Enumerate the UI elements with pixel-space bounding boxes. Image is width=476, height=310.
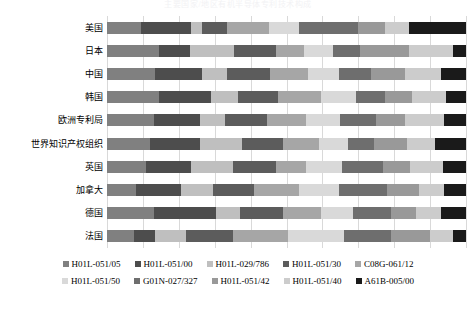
bar-segment <box>409 22 466 34</box>
bar-segment <box>190 45 235 57</box>
bar-segment <box>150 138 200 150</box>
gridline <box>466 16 467 248</box>
legend-swatch-icon <box>283 261 289 267</box>
bar-segment <box>107 230 134 242</box>
bar-segment <box>276 161 307 173</box>
bar-segment <box>358 22 385 34</box>
y-axis-label: 加拿大 <box>0 184 103 196</box>
bar-segment <box>306 114 340 126</box>
bar-segment <box>385 22 408 34</box>
legend-item[interactable]: H01L-051/42 <box>212 276 270 286</box>
y-axis-label: 德国 <box>0 207 103 219</box>
bar-segment <box>211 91 238 103</box>
bar-segment <box>446 91 466 103</box>
bar-segment <box>319 138 348 150</box>
bar-segment <box>234 45 275 57</box>
bar-segment <box>288 230 344 242</box>
bar-row <box>107 45 466 57</box>
bar-segment <box>107 207 154 219</box>
legend-item[interactable]: C08G-061/12 <box>355 259 414 269</box>
legend-item[interactable]: G01N-027/327 <box>134 276 198 286</box>
bar-segment <box>283 138 319 150</box>
chart-container: 主要国家/地区有机半导体专利技术构成 美国日本中国韩国欧洲专利局世界知识产权组织… <box>0 0 476 310</box>
bar-segment <box>443 161 466 173</box>
bar-segment <box>269 22 300 34</box>
bar-row <box>107 207 466 219</box>
y-axis-label: 日本 <box>0 45 103 57</box>
bar-segment <box>444 114 466 126</box>
y-axis-label: 中国 <box>0 68 103 80</box>
bar-segment <box>159 45 190 57</box>
bar-segment <box>276 45 305 57</box>
chart-title: 主要国家/地区有机半导体专利技术构成 <box>0 0 476 9</box>
bar-segment <box>376 114 405 126</box>
bars-layer <box>107 16 466 248</box>
bar-segment <box>416 207 441 219</box>
bar-segment <box>233 161 276 173</box>
chart-legend: H01L-051/05H01L-051/00H01L-029/786H01L-0… <box>0 255 476 289</box>
bar-segment <box>306 161 342 173</box>
bar-segment <box>254 184 299 196</box>
bar-segment <box>430 230 453 242</box>
bar-segment <box>134 230 156 242</box>
bar-row <box>107 230 466 242</box>
legend-swatch-icon <box>207 261 213 267</box>
y-axis-label: 英国 <box>0 161 103 173</box>
bar-segment <box>107 161 146 173</box>
legend-swatch-icon <box>284 278 290 284</box>
bar-segment <box>240 207 283 219</box>
bar-segment <box>191 22 202 34</box>
bar-row <box>107 184 466 196</box>
bar-segment <box>154 207 217 219</box>
bar-segment <box>155 230 186 242</box>
legend-row: H01L-051/05H01L-051/00H01L-029/786H01L-0… <box>0 255 476 272</box>
bar-segment <box>383 161 410 173</box>
y-axis-label: 美国 <box>0 22 103 34</box>
bar-segment <box>146 161 191 173</box>
legend-label: H01L-051/30 <box>292 259 341 269</box>
bar-segment <box>202 68 227 80</box>
bar-segment <box>353 207 391 219</box>
bar-segment <box>356 91 385 103</box>
legend-item[interactable]: H01L-029/786 <box>207 259 270 269</box>
plot-area <box>107 16 466 248</box>
bar-segment <box>344 230 391 242</box>
legend-swatch-icon <box>212 278 218 284</box>
bar-segment <box>405 68 441 80</box>
bar-segment <box>340 114 376 126</box>
bar-segment <box>107 114 154 126</box>
bar-segment <box>141 22 191 34</box>
legend-item[interactable]: H01L-051/50 <box>62 276 120 286</box>
bar-row <box>107 91 466 103</box>
bar-row <box>107 22 466 34</box>
bar-segment <box>267 114 306 126</box>
legend-item[interactable]: A61B-005/00 <box>356 276 415 286</box>
legend-label: H01L-051/42 <box>221 276 270 286</box>
legend-item[interactable]: H01L-051/00 <box>135 259 193 269</box>
legend-swatch-icon <box>63 261 69 267</box>
bar-segment <box>159 91 211 103</box>
legend-item[interactable]: H01L-051/40 <box>284 276 342 286</box>
bar-segment <box>385 91 412 103</box>
bar-segment <box>225 114 266 126</box>
bar-segment <box>238 91 277 103</box>
legend-item[interactable]: H01L-051/05 <box>63 259 121 269</box>
bar-segment <box>181 184 213 196</box>
bar-segment <box>191 161 232 173</box>
bar-segment <box>371 68 405 80</box>
bar-segment <box>374 138 406 150</box>
bar-segment <box>200 114 225 126</box>
bar-segment <box>227 22 268 34</box>
bar-segment <box>453 230 466 242</box>
bar-segment <box>216 207 239 219</box>
bar-segment <box>333 45 360 57</box>
bar-segment <box>155 68 202 80</box>
y-axis-labels: 美国日本中国韩国欧洲专利局世界知识产权组织英国加拿大德国法国 <box>0 16 103 248</box>
y-axis-label: 世界知识产权组织 <box>0 138 103 150</box>
bar-segment <box>321 207 353 219</box>
legend-item[interactable]: H01L-051/30 <box>283 259 341 269</box>
bar-segment <box>435 138 466 150</box>
bar-segment <box>270 68 308 80</box>
bar-segment <box>360 45 408 57</box>
y-axis-label: 法国 <box>0 230 103 242</box>
